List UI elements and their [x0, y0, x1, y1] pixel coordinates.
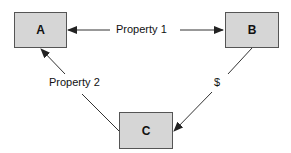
edge-label-property-2: Property 2 — [49, 76, 100, 88]
edge-label-property-1: Property 1 — [116, 23, 167, 35]
edge-dollar-arrow — [174, 92, 212, 131]
node-a: A — [14, 12, 67, 48]
node-c: C — [119, 112, 173, 149]
edge-dollar-line — [228, 48, 252, 74]
edge-label-dollar: $ — [214, 76, 220, 88]
node-b: B — [225, 12, 279, 48]
edge-property-2-arrow — [82, 94, 119, 131]
edge-property-2-arrow-head — [41, 49, 65, 74]
